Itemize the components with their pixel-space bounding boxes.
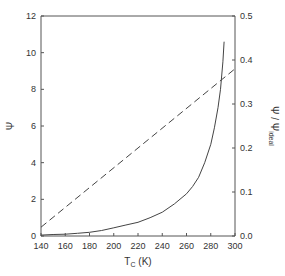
- y2-tick-label: 0.3: [240, 99, 253, 109]
- x-tick-label: 260: [179, 241, 194, 251]
- x-tick-label: 280: [203, 241, 218, 251]
- y2-tick-label: 0.1: [240, 187, 253, 197]
- x-axis-title: TC (K): [124, 256, 151, 268]
- y-axis-title: Ψ: [5, 122, 16, 130]
- x-tick-label: 140: [33, 241, 48, 251]
- y2-tick-label: 0.0: [240, 231, 253, 241]
- y2-tick-label: 0.5: [240, 11, 253, 21]
- x-tick-label: 180: [82, 241, 97, 251]
- y-tick-label: 4: [31, 158, 36, 168]
- y2-tick-label: 0.2: [240, 143, 253, 153]
- y2-tick-label: 0.4: [240, 55, 253, 65]
- plot-axes: 1401601802002202402602803000246810120.00…: [26, 11, 253, 251]
- ratio-dashed-line: [41, 69, 235, 227]
- y-tick-label: 8: [31, 84, 36, 94]
- x-tick-label: 240: [155, 241, 170, 251]
- chart: 1401601802002202402602803000246810120.00…: [0, 0, 285, 276]
- x-tick-label: 300: [227, 241, 242, 251]
- y-tick-label: 6: [31, 121, 36, 131]
- x-tick-label: 200: [106, 241, 121, 251]
- y-tick-label: 0: [31, 231, 36, 241]
- x-tick-label: 220: [130, 241, 145, 251]
- y2-axis-title: Ψ / Ψideal: [268, 106, 280, 146]
- x-tick-label: 160: [58, 241, 73, 251]
- y-tick-label: 2: [31, 194, 36, 204]
- y-tick-label: 12: [26, 11, 36, 21]
- plot-series: [41, 42, 235, 235]
- y-tick-label: 10: [26, 48, 36, 58]
- psi-solid-curve: [41, 42, 224, 235]
